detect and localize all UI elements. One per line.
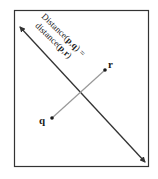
label-q: q — [39, 114, 46, 126]
label-r: r — [108, 58, 113, 70]
bisector-diagram: q r Distance(p,q) = distance(p,r) — [0, 0, 158, 179]
frame — [15, 11, 149, 167]
point-r — [103, 68, 107, 72]
bisector-label: Distance(p,q) = distance(p,r) — [32, 11, 88, 66]
point-q — [50, 116, 54, 120]
